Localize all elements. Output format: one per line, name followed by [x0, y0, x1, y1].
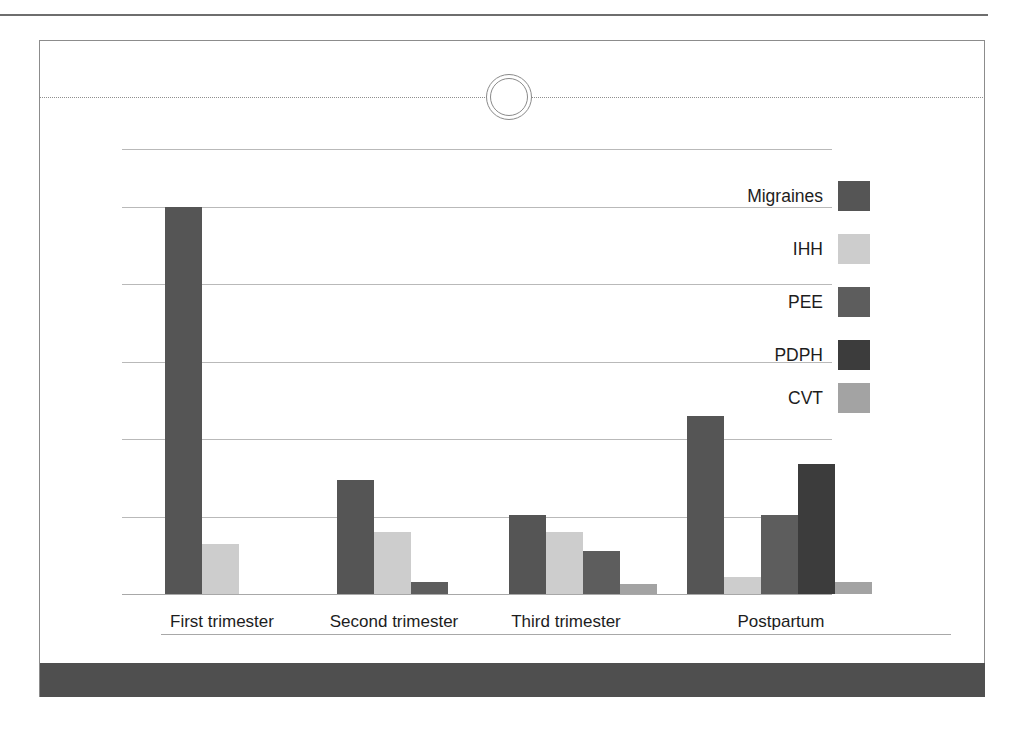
bar: [337, 480, 374, 594]
legend-item: CVT: [599, 383, 870, 413]
footer-band: [40, 663, 985, 697]
bar: [165, 207, 202, 594]
punch-hole-icon: [486, 74, 532, 120]
legend-item-label: CVT: [788, 383, 823, 413]
bar: [411, 582, 448, 594]
legend-item: IHH: [599, 234, 870, 264]
bar: [724, 577, 761, 594]
x-axis-tick-label: Postpartum: [671, 612, 891, 632]
legend-color-swatch: [838, 383, 870, 413]
legend-item-label: Migraines: [747, 181, 823, 211]
bar: [583, 551, 620, 594]
legend-item: PDPH: [599, 340, 870, 370]
bar: [835, 582, 872, 594]
bar: [798, 464, 835, 594]
legend-item-label: PDPH: [774, 340, 823, 370]
bar: [374, 532, 411, 594]
legend-color-swatch: [838, 287, 870, 317]
scanned-page: First trimesterSecond trimesterThird tri…: [0, 0, 1029, 733]
bar-chart: First trimesterSecond trimesterThird tri…: [39, 40, 985, 697]
legend-color-swatch: [838, 181, 870, 211]
bar: [202, 544, 239, 594]
legend-item: PEE: [599, 287, 870, 317]
page-top-rule: [0, 14, 988, 16]
bar: [620, 584, 657, 594]
bar: [546, 532, 583, 594]
legend-item: Migraines: [599, 181, 870, 211]
bar: [761, 515, 798, 594]
legend-color-swatch: [838, 340, 870, 370]
legend-item-label: IHH: [793, 234, 823, 264]
x-axis-tick-label: Third trimester: [456, 612, 676, 632]
bar: [687, 416, 724, 594]
legend-color-swatch: [838, 234, 870, 264]
bar: [509, 515, 546, 594]
legend-item-label: PEE: [788, 287, 823, 317]
